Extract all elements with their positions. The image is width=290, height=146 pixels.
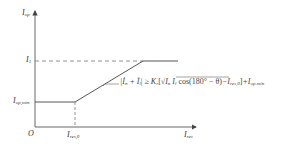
iopmin-label: Iop,min — [13, 97, 29, 105]
ires0-label: Ires,0 — [67, 131, 79, 139]
formula-iop-sub: op.min — [250, 81, 264, 86]
formula-minus-ires: −I — [222, 77, 230, 86]
formula-ge-k: ≥ K — [142, 77, 156, 86]
restraint-formula: |İn + İl| ≥ Kr[√In Il cos(180° − θ)−Ires… — [120, 77, 264, 86]
origin-label: O — [28, 130, 34, 138]
formula-plus: + İ — [127, 77, 139, 86]
formula-cos: cos(180° − θ) — [176, 77, 222, 86]
y-axis-label: Iop — [22, 9, 30, 17]
i1-label: I1 — [26, 56, 31, 64]
iopmin-label-sub: op,min — [16, 100, 30, 105]
y-axis-label-sub: op — [25, 12, 30, 17]
i1-label-sub: 1 — [29, 59, 32, 64]
x-axis-label-sub: res — [187, 134, 193, 139]
x-axis-label: Ires — [184, 131, 193, 139]
formula-ires-sub: res,0 — [230, 81, 240, 86]
characteristic-diagram — [0, 0, 290, 146]
ires0-label-sub: res,0 — [70, 134, 80, 139]
